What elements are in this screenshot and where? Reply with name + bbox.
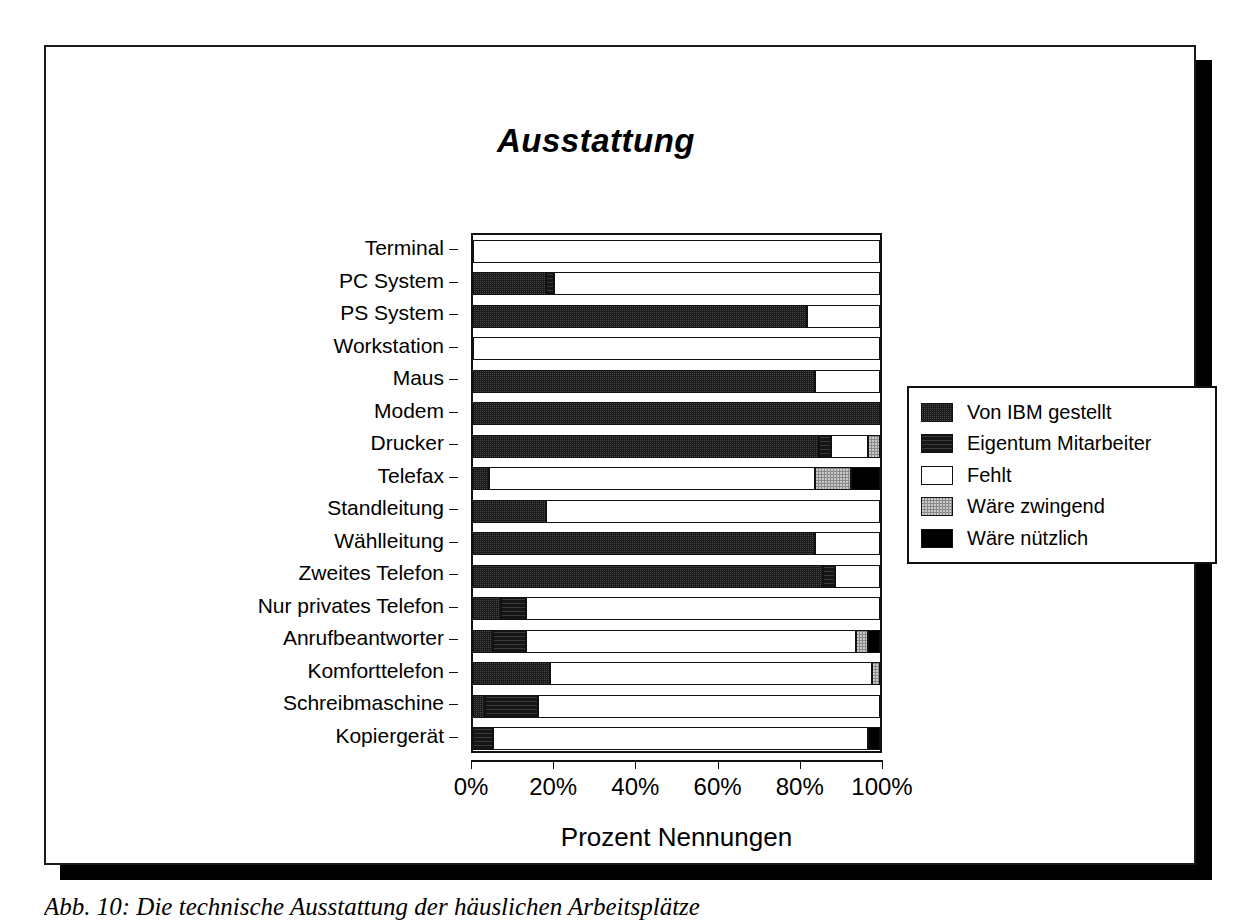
y-axis-tick — [449, 314, 458, 315]
category-label: Kopiergerät — [335, 725, 444, 746]
category-label: Komforttelefon — [307, 660, 444, 681]
bar-row — [473, 727, 880, 750]
legend-label: Eigentum Mitarbeiter — [967, 432, 1152, 455]
bar-segment-fehlt — [493, 727, 867, 750]
bar-segment-fehlt — [835, 565, 880, 588]
bar-row — [473, 695, 880, 718]
bar-row — [473, 467, 880, 490]
bar-segment-fehlt — [546, 500, 880, 523]
legend-item[interactable]: Wäre nützlich — [921, 524, 1203, 552]
bar-row — [473, 305, 880, 328]
bar-segment-fehlt — [815, 532, 880, 555]
category-label: Standleitung — [327, 497, 444, 518]
bar-segment-fehlt — [538, 695, 880, 718]
y-axis-tick — [449, 282, 458, 283]
bar-segment-eigentum — [546, 272, 554, 295]
bar-segment-ibm — [473, 630, 493, 653]
legend-item[interactable]: Von IBM gestellt — [921, 398, 1203, 426]
bar-segment-fehlt — [807, 305, 880, 328]
legend-label: Von IBM gestellt — [967, 401, 1112, 424]
bar-segment-zwingend — [856, 630, 868, 653]
x-axis-title: Prozent Nennungen — [471, 822, 882, 853]
chart-legend: Von IBM gestelltEigentum MitarbeiterFehl… — [907, 386, 1217, 564]
bar-row — [473, 402, 880, 425]
plot-area — [471, 233, 882, 753]
category-label: Terminal — [365, 237, 444, 258]
y-axis-tick — [449, 639, 458, 640]
category-label: Zweites Telefon — [298, 562, 444, 583]
bar-row — [473, 597, 880, 620]
y-axis-tick — [449, 444, 458, 445]
x-axis-tick-label: 40% — [590, 773, 680, 801]
x-axis-tick — [553, 760, 554, 769]
bar-segment-nuetzlich — [868, 630, 880, 653]
y-axis-tick — [449, 347, 458, 348]
y-axis-tick — [449, 249, 458, 250]
bar-segment-fehlt — [473, 337, 880, 360]
category-label: PC System — [339, 270, 444, 291]
y-axis-tick — [449, 542, 458, 543]
bar-segment-ibm — [473, 467, 489, 490]
legend-item[interactable]: Eigentum Mitarbeiter — [921, 430, 1203, 458]
y-axis-tick — [449, 412, 458, 413]
legend-item[interactable]: Wäre zwingend — [921, 493, 1203, 521]
bar-row — [473, 630, 880, 653]
bar-row — [473, 565, 880, 588]
bar-segment-ibm — [473, 597, 501, 620]
bar-row — [473, 662, 880, 685]
bar-segment-eigentum — [819, 435, 831, 458]
y-axis-tick — [449, 704, 458, 705]
bar-segment-ibm — [473, 500, 546, 523]
category-label: Modem — [374, 400, 444, 421]
x-axis-tick-label: 100% — [837, 773, 927, 801]
bars-container — [473, 235, 880, 751]
bar-segment-fehlt — [831, 435, 868, 458]
bar-segment-zwingend — [815, 467, 852, 490]
bar-segment-eigentum — [501, 597, 525, 620]
legend-swatch-fehlt — [921, 466, 953, 485]
y-axis-tick — [449, 509, 458, 510]
category-label: PS System — [340, 302, 444, 323]
category-label: Nur privates Telefon — [258, 595, 444, 616]
bar-segment-fehlt — [554, 272, 880, 295]
bar-segment-zwingend — [868, 435, 880, 458]
legend-swatch-nuetzlich — [921, 529, 953, 548]
legend-label: Fehlt — [967, 464, 1011, 487]
bar-segment-ibm — [473, 435, 819, 458]
y-axis-tick — [449, 737, 458, 738]
bar-segment-fehlt — [815, 370, 880, 393]
legend-label: Wäre zwingend — [967, 495, 1105, 518]
bar-row — [473, 272, 880, 295]
bar-segment-ibm — [473, 695, 485, 718]
x-axis-tick-label: 0% — [426, 773, 516, 801]
y-axis-tick — [449, 379, 458, 380]
bar-row — [473, 370, 880, 393]
x-axis-tick — [471, 760, 472, 769]
bar-segment-fehlt — [489, 467, 815, 490]
legend-label: Wäre nützlich — [967, 527, 1088, 550]
legend-item[interactable]: Fehlt — [921, 461, 1203, 489]
x-axis-tick-label: 80% — [755, 773, 845, 801]
x-axis-line — [471, 760, 882, 762]
bar-row — [473, 500, 880, 523]
bar-segment-nuetzlich — [868, 727, 880, 750]
legend-swatch-zwingend — [921, 497, 953, 516]
bar-segment-eigentum — [493, 630, 526, 653]
bar-segment-nuetzlich — [851, 467, 879, 490]
bar-row — [473, 337, 880, 360]
bar-row — [473, 435, 880, 458]
x-axis-tick — [882, 760, 883, 769]
bar-segment-ibm — [473, 532, 815, 555]
bar-segment-fehlt — [526, 630, 856, 653]
y-axis-tick — [449, 574, 458, 575]
legend-swatch-ibm — [921, 403, 953, 422]
category-label: Anrufbeantworter — [283, 627, 444, 648]
bar-segment-fehlt — [526, 597, 880, 620]
bar-segment-ibm — [473, 662, 550, 685]
figure-caption: Abb. 10: Die technische Ausstattung der … — [44, 893, 1194, 921]
y-axis-tick — [449, 607, 458, 608]
figure-frame: Ausstattung TerminalPC SystemPS SystemWo… — [44, 45, 1196, 865]
legend-swatch-eigentum — [921, 434, 953, 453]
bar-segment-eigentum — [473, 727, 493, 750]
bar-segment-fehlt — [550, 662, 872, 685]
